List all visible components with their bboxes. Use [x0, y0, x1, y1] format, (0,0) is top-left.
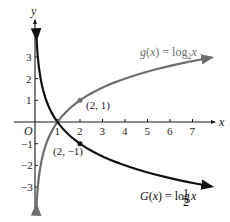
x-tick-label: 6	[167, 125, 173, 137]
x-axis-label: x	[218, 115, 225, 129]
point-label-2-neg1: (2, −1)	[53, 145, 83, 158]
svg-text:x: x	[190, 189, 197, 203]
y-tick-label: 2	[26, 73, 32, 85]
point-2-1	[78, 98, 83, 103]
log-graph: x y O 1234567 321−1−2−3 (2, 1) (2, −1) g…	[0, 0, 230, 222]
y-tick-label: −1	[21, 138, 33, 150]
point-label-2-1: (2, 1)	[86, 99, 110, 112]
y-tick-label: −2	[21, 159, 33, 171]
x-tick-label: 7	[190, 125, 196, 137]
y-tick-label: 1	[26, 94, 32, 106]
svg-text:2: 2	[183, 195, 189, 209]
x-tick-label: 4	[122, 125, 128, 137]
x-tick-label: 3	[100, 125, 106, 137]
G-curve	[37, 39, 212, 187]
y-tick-label: −3	[21, 181, 33, 193]
origin-label: O	[24, 124, 33, 138]
y-tick-label: 3	[26, 51, 32, 63]
x-tick-label: 5	[145, 125, 151, 137]
x-tick-label: 2	[77, 125, 83, 137]
g-function-label: g(x) = log2x	[140, 45, 197, 61]
G-function-label: G(x) = log 1 2 x	[140, 186, 197, 209]
y-axis-label: y	[30, 4, 37, 18]
